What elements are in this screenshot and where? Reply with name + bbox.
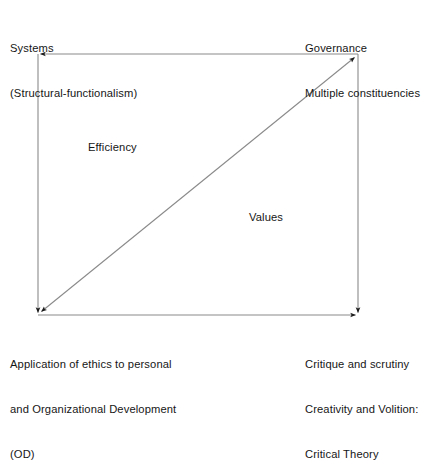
corner-label-top-right-line-1: Governance <box>305 41 420 56</box>
corner-label-top-left-line-1: Systems <box>10 41 137 56</box>
corner-label-bottom-right-line-1: Critique and scrutiny <box>305 357 418 372</box>
corner-label-bottom-left-line-1: Application of ethics to personal <box>10 357 176 372</box>
corner-label-top-left: Systems (Structural-functionalism) <box>10 11 137 131</box>
corner-label-bottom-left: Application of ethics to personal and Or… <box>10 327 176 464</box>
interior-label-efficiency: Efficiency <box>88 140 137 155</box>
corner-label-bottom-right-line-3: Critical Theory <box>305 447 418 462</box>
corner-label-top-right-line-2: Multiple constituencies <box>305 86 420 101</box>
corner-label-bottom-right-line-2: Creativity and Volition: <box>305 402 418 417</box>
interior-label-values: Values <box>249 210 283 225</box>
corner-label-top-right: Governance Multiple constituencies <box>305 11 420 131</box>
corner-label-bottom-left-line-2: and Organizational Development <box>10 402 176 417</box>
corner-label-top-left-line-2: (Structural-functionalism) <box>10 86 137 101</box>
corner-label-bottom-left-line-3: (OD) <box>10 447 176 462</box>
corner-label-bottom-right: Critique and scrutiny Creativity and Vol… <box>305 327 418 464</box>
